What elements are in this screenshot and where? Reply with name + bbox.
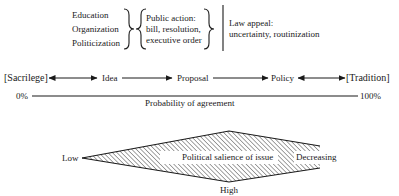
stage-tradition: [Tradition]: [346, 73, 390, 83]
label-organization: Organization: [72, 25, 119, 34]
stage-idea: Idea: [102, 74, 118, 83]
label-public-action: Public action:: [146, 14, 196, 23]
axis-min-label: 0%: [16, 92, 28, 101]
axis-max-label: 100%: [360, 92, 381, 101]
stage-policy: Policy: [271, 74, 294, 83]
salience-high-label: High: [220, 186, 238, 195]
label-law-appeal: Law appeal:: [229, 19, 273, 28]
axis-title: Probability of agreement: [145, 99, 234, 108]
stage-proposal: Proposal: [177, 74, 209, 83]
label-bill-resolution: bill, resolution,: [146, 25, 201, 34]
right-brace-icon: [124, 9, 134, 49]
left-brace-icon: [136, 9, 146, 49]
label-uncertainty: uncertainty, routinization: [229, 30, 319, 39]
label-education: Education: [72, 11, 109, 20]
salience-center-label: Political salience of issue: [182, 153, 273, 162]
right-brace-icon-2: [204, 9, 214, 49]
salience-decreasing-label: Decreasing: [296, 153, 336, 162]
label-politicization: Politicization: [72, 39, 120, 48]
stage-sacrilege: [Sacrilege]: [4, 73, 48, 83]
label-executive-order: executive order: [146, 36, 202, 45]
salience-low-label: Low: [62, 154, 79, 163]
